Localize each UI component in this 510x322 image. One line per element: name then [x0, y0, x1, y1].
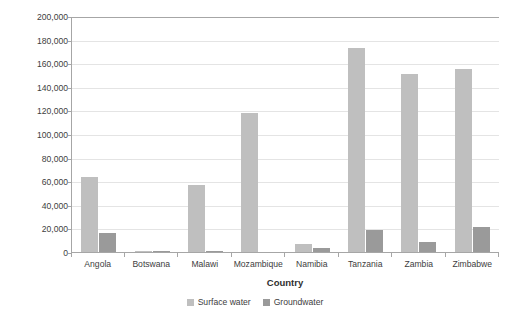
bar-group [179, 17, 232, 252]
x-axis-tickmark [232, 253, 286, 257]
x-axis-tick-label: Mozambique [232, 258, 286, 272]
x-axis-tick-label: Tanzania [339, 258, 393, 272]
y-axis-tick-label: 140,000 [14, 83, 68, 92]
y-axis-tick-label: 80,000 [14, 154, 68, 163]
y-axis-tick-label: 100,000 [14, 131, 68, 140]
x-axis-tick-label: Zimbabwe [446, 258, 500, 272]
bar-zimbabwe-surface-water[interactable] [455, 69, 472, 252]
y-axis-tick-label: 40,000 [14, 201, 68, 210]
legend-swatch-icon [263, 299, 270, 306]
y-axis-tick-label: 180,000 [14, 36, 68, 45]
x-axis-tick-label: Namibia [285, 258, 339, 272]
y-axis-tick-labels: 020,00040,00060,00080,000100,000120,0001… [14, 17, 68, 253]
x-axis-tick-label: Zambia [392, 258, 446, 272]
legend-label: Surface water [198, 297, 251, 307]
bar-group [446, 17, 499, 252]
bar-group [72, 17, 125, 252]
x-axis-tickmark [285, 253, 339, 257]
bar-namibia-groundwater[interactable] [313, 248, 330, 252]
bar-mozambique-surface-water[interactable] [241, 113, 258, 252]
x-axis-tick-label: Botswana [125, 258, 179, 272]
x-axis-tickmark [125, 253, 179, 257]
x-axis-tickmarks [71, 253, 499, 257]
y-axis-tick-label: 60,000 [14, 178, 68, 187]
bar-angola-groundwater[interactable] [99, 233, 116, 252]
bar-zimbabwe-groundwater[interactable] [473, 227, 490, 252]
legend-swatch-icon [187, 299, 194, 306]
x-axis-tick-label: Angola [71, 258, 125, 272]
plot-area [71, 17, 499, 253]
y-axis-tick-label: 0 [14, 249, 68, 258]
bar-tanzania-surface-water[interactable] [348, 48, 365, 252]
x-axis-tickmark [446, 253, 500, 257]
bar-botswana-groundwater[interactable] [153, 251, 170, 252]
bar-group [339, 17, 392, 252]
legend-item[interactable]: Groundwater [263, 297, 324, 307]
y-axis-tick-label: 200,000 [14, 13, 68, 22]
bar-group [392, 17, 445, 252]
x-axis-tickmark [392, 253, 446, 257]
bar-zambia-groundwater[interactable] [419, 242, 436, 252]
y-axis-tick-label: 120,000 [14, 107, 68, 116]
bar-group [286, 17, 339, 252]
bar-tanzania-groundwater[interactable] [366, 230, 383, 252]
bar-botswana-surface-water[interactable] [135, 251, 152, 252]
x-axis-tickmark [71, 253, 125, 257]
bar-zambia-surface-water[interactable] [401, 74, 418, 252]
legend-item[interactable]: Surface water [187, 297, 251, 307]
y-axis-tick-label: 20,000 [14, 225, 68, 234]
bar-group [125, 17, 178, 252]
chart-legend: Surface waterGroundwater [0, 297, 510, 307]
x-axis-tick-labels: AngolaBotswanaMalawiMozambiqueNamibiaTan… [71, 258, 499, 272]
bar-namibia-surface-water[interactable] [295, 244, 312, 252]
bars-layer [72, 17, 499, 252]
x-axis-tickmark [178, 253, 232, 257]
x-axis-tick-label: Malawi [178, 258, 232, 272]
bar-malawi-groundwater[interactable] [206, 251, 223, 252]
bar-chart: Area of irrigated land (ha) 020,00040,00… [0, 0, 510, 322]
bar-malawi-surface-water[interactable] [188, 185, 205, 252]
y-axis-tick-label: 160,000 [14, 60, 68, 69]
legend-label: Groundwater [274, 297, 324, 307]
x-axis-title: Country [71, 277, 499, 288]
bar-group [232, 17, 285, 252]
bar-angola-surface-water[interactable] [81, 177, 98, 252]
x-axis-tickmark [339, 253, 393, 257]
